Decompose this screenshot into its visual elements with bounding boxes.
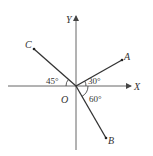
point-c xyxy=(33,48,36,51)
angle-30-label: 30° xyxy=(88,76,101,86)
arc-30 xyxy=(85,81,86,86)
arc-60 xyxy=(82,86,88,96)
origin-label: O xyxy=(61,94,68,105)
point-a-label: A xyxy=(123,51,131,62)
y-axis-label: Y xyxy=(66,14,73,25)
point-b-label: B xyxy=(108,135,114,146)
point-b xyxy=(105,137,108,140)
coordinate-diagram: Y X O A B C 45° 30° 60° xyxy=(0,0,153,156)
point-a xyxy=(121,59,124,62)
angle-60-label: 60° xyxy=(89,94,102,104)
point-c-label: C xyxy=(25,39,32,50)
arc-45 xyxy=(66,79,69,86)
angle-45-label: 45° xyxy=(46,76,59,86)
x-axis-label: X xyxy=(133,81,141,92)
